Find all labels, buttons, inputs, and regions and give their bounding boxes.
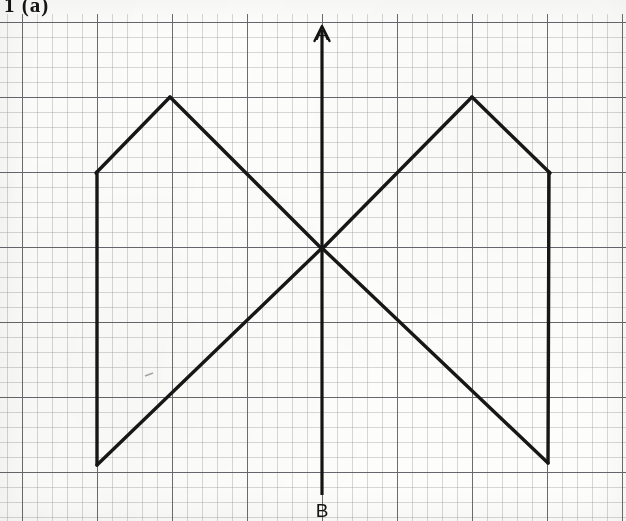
label-b: B <box>316 500 329 521</box>
major-grid-lines <box>0 14 626 521</box>
worksheet-page: 1 (a) <box>0 0 626 521</box>
graph-paper: A B <box>0 0 626 521</box>
label-a: A <box>316 23 329 44</box>
question-heading: 1 (a) <box>4 0 49 18</box>
right-vertical-edge <box>548 172 549 463</box>
